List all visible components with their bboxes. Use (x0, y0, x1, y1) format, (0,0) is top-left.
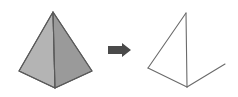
diagram-svg (0, 0, 238, 97)
diagram-canvas (0, 0, 238, 97)
